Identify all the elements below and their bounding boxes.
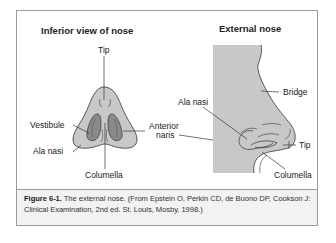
- label-ala-nasi-inferior: Ala nasi: [33, 146, 63, 156]
- label-bridge: Bridge: [283, 87, 308, 97]
- right-panel-title: External nose: [219, 23, 281, 34]
- figure-number: Figure 6-1.: [24, 194, 62, 203]
- caption-text: The external nose. (From Epstein O, Perk…: [24, 194, 310, 214]
- label-vestibule: Vestibule: [30, 120, 65, 130]
- figure-frame: Inferior view of nose External nose Tip: [16, 10, 318, 226]
- label-columella-external: Columella: [274, 170, 312, 180]
- nose-diagram: Inferior view of nose External nose Tip: [17, 11, 317, 189]
- figure-caption: Figure 6-1. The external nose. (From Eps…: [17, 189, 317, 225]
- label-ala-nasi-external: Ala nasi: [178, 97, 208, 107]
- label-tip-inferior: Tip: [98, 45, 110, 55]
- nose-illustration: Inferior view of nose External nose Tip: [17, 11, 317, 189]
- label-anterior-line2: naris: [156, 130, 174, 140]
- label-columella-inferior: Columella: [85, 170, 123, 180]
- external-nose-shape: [213, 45, 295, 173]
- label-tip-external: Tip: [299, 140, 311, 150]
- left-panel-title: Inferior view of nose: [41, 25, 133, 36]
